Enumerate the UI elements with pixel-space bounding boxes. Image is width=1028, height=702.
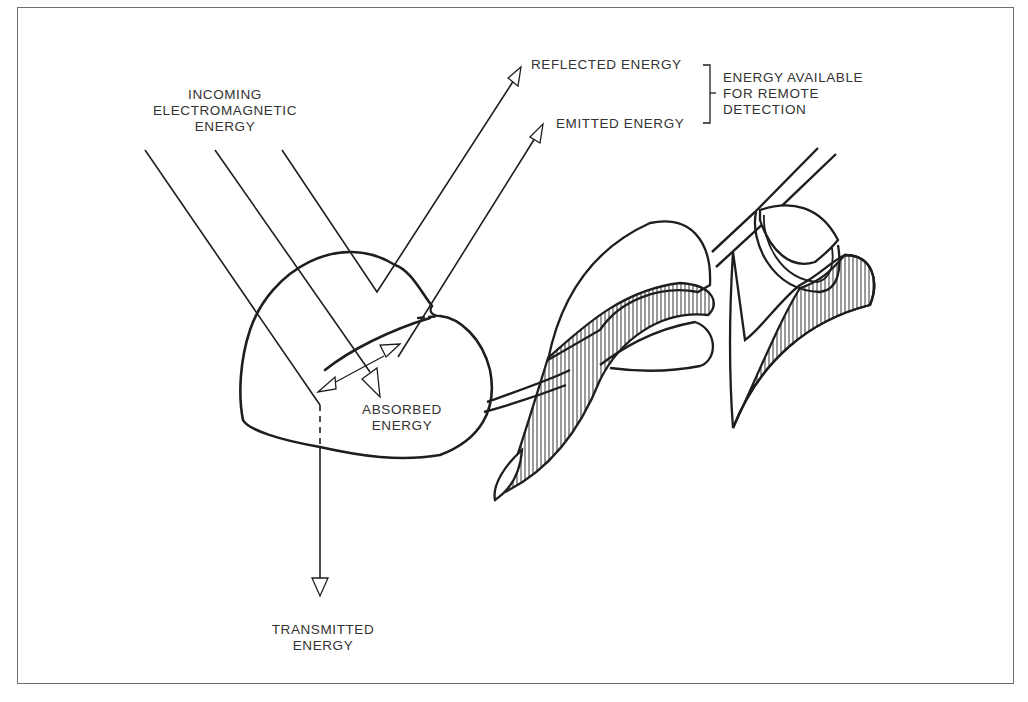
label-line: FOR REMOTE bbox=[723, 86, 863, 102]
absorbed-energy-label: ABSORBED ENERGY bbox=[352, 402, 452, 434]
absorbed-ray bbox=[215, 150, 370, 372]
label-line: ENERGY bbox=[258, 638, 388, 654]
emitted-ray bbox=[398, 138, 535, 357]
transmitted-energy-label: TRANSMITTED ENERGY bbox=[258, 622, 388, 654]
transmitted-ray bbox=[145, 150, 320, 405]
label-line: TRANSMITTED bbox=[258, 622, 388, 638]
right-leaf bbox=[730, 205, 874, 428]
label-line: ENERGY bbox=[352, 418, 452, 434]
label-line: DETECTION bbox=[723, 102, 863, 118]
label-line: ABSORBED bbox=[352, 402, 452, 418]
label-line: ENERGY AVAILABLE bbox=[723, 70, 863, 86]
incoming-rays bbox=[145, 80, 535, 578]
arrowheads bbox=[312, 67, 543, 596]
absorbed-arrowhead bbox=[362, 368, 380, 397]
transmitted-arrowhead bbox=[312, 578, 328, 596]
reflected-ray bbox=[282, 80, 514, 292]
label-line: ENERGY bbox=[140, 119, 310, 135]
detection-bracket bbox=[703, 65, 716, 123]
reflected-energy-label: REFLECTED ENERGY bbox=[531, 57, 682, 73]
label-line: INCOMING bbox=[140, 87, 310, 103]
reflected-arrowhead bbox=[508, 67, 521, 86]
emitted-energy-label: EMITTED ENERGY bbox=[556, 116, 684, 132]
internal-scatter-arrow bbox=[318, 344, 400, 392]
label-line: ELECTROMAGNETIC bbox=[140, 103, 310, 119]
available-energy-label: ENERGY AVAILABLE FOR REMOTE DETECTION bbox=[723, 70, 863, 118]
incoming-energy-label: INCOMING ELECTROMAGNETIC ENERGY bbox=[140, 87, 310, 135]
middle-leaf bbox=[495, 222, 714, 500]
emitted-arrowhead bbox=[530, 124, 543, 143]
